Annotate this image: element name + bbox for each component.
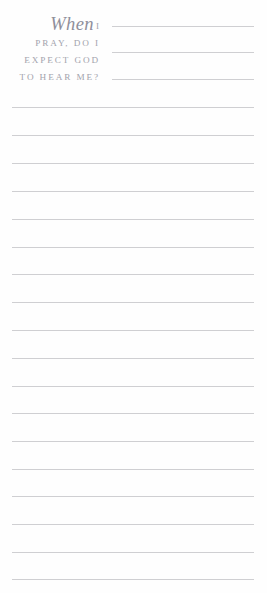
writing-rule xyxy=(12,524,254,525)
prompt-line-1: WhenI xyxy=(50,14,100,35)
writing-rule-short xyxy=(112,26,254,27)
writing-rule xyxy=(12,302,254,303)
writing-rule xyxy=(12,107,254,108)
writing-rule xyxy=(12,135,254,136)
writing-rule xyxy=(12,274,254,275)
prompt-smallcap-word: I xyxy=(94,21,100,31)
writing-rule xyxy=(12,358,254,359)
writing-rule xyxy=(12,552,254,553)
writing-rule xyxy=(12,386,254,387)
writing-rule xyxy=(12,413,254,414)
prompt-line-2: PRAY, DO I xyxy=(35,38,100,48)
writing-rule xyxy=(12,330,254,331)
prompt-script-word: When xyxy=(50,14,94,34)
prompt-line-4: TO HEAR ME? xyxy=(20,72,100,82)
writing-rule-short xyxy=(112,79,254,80)
writing-rule xyxy=(12,247,254,248)
writing-rule xyxy=(12,441,254,442)
writing-rule-short xyxy=(112,52,254,53)
writing-rule xyxy=(12,219,254,220)
prompt-line-3: EXPECT GOD xyxy=(24,55,100,65)
journal-page: WhenI PRAY, DO I EXPECT GOD TO HEAR ME? xyxy=(0,0,267,593)
writing-rule xyxy=(12,469,254,470)
writing-rule xyxy=(12,163,254,164)
writing-rule xyxy=(12,191,254,192)
writing-rule xyxy=(12,579,254,580)
writing-rule xyxy=(12,496,254,497)
